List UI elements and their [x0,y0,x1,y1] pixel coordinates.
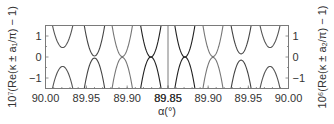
right-y-tick-label: 1 [293,30,299,42]
left-y-tick-label: 0 [35,51,41,63]
chart: 90.0089.9589.9089.8510−189.8589.9089.959… [0,0,334,124]
right-y-tick-label: 0 [293,51,299,63]
left-pair-2-upper-branch [81,15,107,56]
right-y-tick-label: −1 [293,72,306,84]
left-x-tick-label: 89.90 [113,92,141,104]
plot-frame [46,26,289,89]
right-x-tick-label: 89.95 [235,92,263,104]
left-y-tick-label: 1 [35,30,41,42]
right-x-tick-label: 89.85 [154,92,182,104]
right-pair-4-upper-branch [257,15,283,48]
left-pair-4-upper-branch [138,15,164,57]
left-panel-curves [50,15,164,99]
axes: 90.0089.9589.9089.8510−189.8589.9089.959… [29,30,305,104]
x-axis-label: α(°) [158,105,176,117]
left-y-axis-label: 10⁷(Re(κ ± a₁/π) − 1) [6,6,18,108]
left-x-tick-label: 89.95 [73,92,101,104]
left-pair-1-upper-branch [50,15,76,48]
left-y-tick-label: −1 [29,72,42,84]
right-x-tick-label: 89.90 [194,92,222,104]
left-pair-3-upper-branch [109,15,135,57]
left-x-tick-label: 90.00 [32,92,60,104]
right-pair-3-upper-branch [228,15,254,54]
right-panel-curves [172,15,283,99]
right-pair-1-upper-branch [172,15,198,57]
plot-area [50,15,283,99]
right-x-tick-label: 90.00 [275,92,303,104]
right-pair-2-upper-branch [200,15,226,57]
right-y-axis-label: 10⁶(Re(κ ± a₂/π) − 1) [316,6,328,109]
